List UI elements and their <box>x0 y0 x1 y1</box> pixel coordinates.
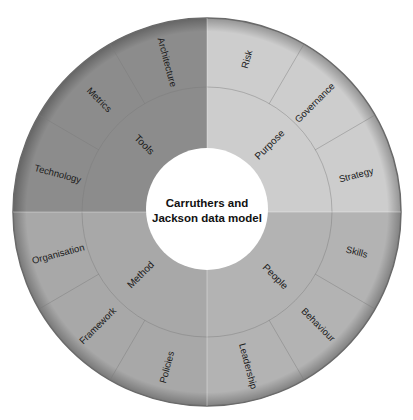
center-circle <box>146 148 268 270</box>
center-title-line1: Carruthers and <box>166 197 248 209</box>
center-title-line2: Jackson data model <box>152 212 262 224</box>
sunburst-diagram: Carruthers and Jackson data model Tools … <box>0 0 413 420</box>
